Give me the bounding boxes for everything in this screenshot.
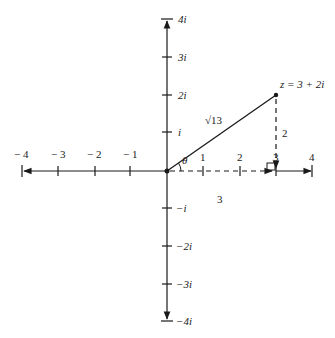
modulus-label: √13: [205, 114, 223, 126]
tick-label-neg-i: −i: [176, 202, 186, 214]
origin-point: [165, 169, 170, 174]
tick-label-neg2: − 2: [87, 148, 101, 160]
tick-label-4: 4: [309, 151, 315, 163]
angle-theta-label: θ: [182, 154, 188, 166]
tick-label-neg1: − 1: [123, 148, 137, 160]
complex-plane-diagram: − 4 − 3 − 2 − 1 1 2 3 4 4i 3i 2i i −i −2…: [0, 0, 335, 338]
vertical-leg-label: 2: [282, 127, 288, 139]
tick-label-3i: 3i: [177, 51, 187, 63]
tick-label-i: i: [178, 126, 181, 138]
tick-label-4i: 4i: [178, 13, 187, 25]
point-z-label: z = 3 + 2i: [279, 78, 324, 90]
tick-label-2i: 2i: [178, 89, 187, 101]
tick-label-2: 2: [237, 151, 243, 163]
angle-arc: [179, 163, 182, 171]
tick-label-neg4i: −4i: [176, 315, 192, 327]
z-point: [274, 93, 278, 97]
tick-label-neg2i: −2i: [176, 240, 192, 252]
horizontal-leg-label: 3: [217, 193, 223, 205]
tick-label-neg3: − 3: [51, 148, 66, 160]
tick-label-neg3i: −3i: [176, 278, 192, 290]
right-angle-marker: [267, 163, 275, 170]
tick-label-neg4: − 4: [14, 148, 29, 160]
tick-label-1: 1: [200, 151, 206, 163]
